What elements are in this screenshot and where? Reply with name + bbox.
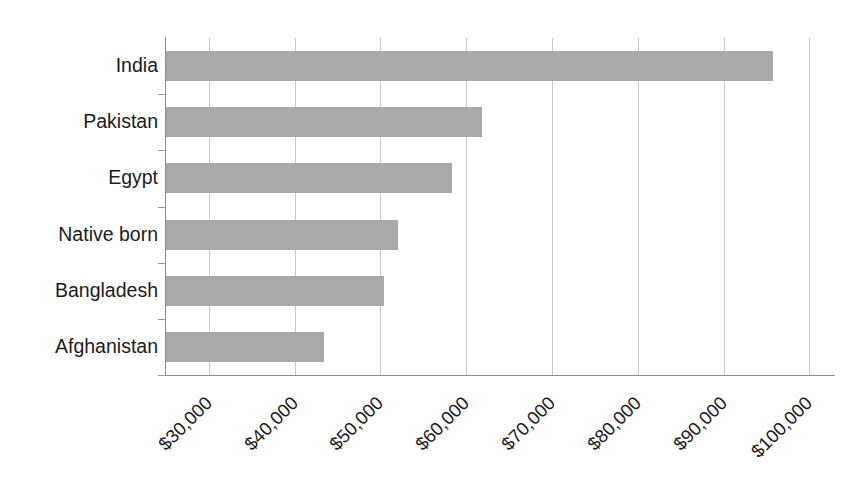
gridline — [638, 38, 639, 375]
category-label: Pakistan — [0, 112, 158, 132]
gridline — [724, 38, 725, 375]
category-tick-mark — [158, 263, 165, 264]
gridline — [209, 38, 210, 375]
value-tick-label: $30,000 — [88, 392, 217, 485]
value-axis-line — [165, 37, 166, 375]
bar — [166, 276, 384, 306]
value-axis-labels: $30,000$40,000$50,000$60,000$70,000$80,0… — [166, 375, 867, 485]
category-tick-mark — [158, 375, 165, 376]
gridline — [552, 38, 553, 375]
bar-chart-figure: IndiaPakistanEgyptNative bornBangladeshA… — [0, 0, 867, 485]
category-label: India — [0, 56, 158, 76]
bar — [166, 51, 773, 81]
gridline — [295, 38, 296, 375]
bar — [166, 220, 398, 250]
bar — [166, 163, 452, 193]
gridlines — [166, 38, 835, 375]
gridline — [466, 38, 467, 375]
category-label: Afghanistan — [0, 337, 158, 357]
category-label: Native born — [0, 225, 158, 245]
gridline — [809, 38, 810, 375]
category-tick-mark — [158, 207, 165, 208]
gridline — [380, 38, 381, 375]
category-tick-mark — [158, 150, 165, 151]
bar — [166, 107, 482, 137]
plot-area — [166, 38, 835, 375]
category-tick-mark — [158, 319, 165, 320]
category-axis-labels: IndiaPakistanEgyptNative bornBangladeshA… — [0, 38, 158, 375]
category-label: Egypt — [0, 168, 158, 188]
category-tick-mark — [158, 94, 165, 95]
bar — [166, 332, 324, 362]
category-label: Bangladesh — [0, 281, 158, 301]
